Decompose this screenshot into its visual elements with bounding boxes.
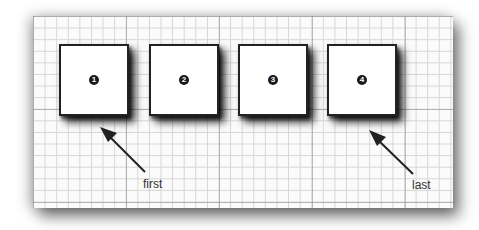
last-arrow-icon [369, 130, 413, 174]
pointer-arrows [0, 0, 479, 230]
first-arrow-icon [100, 127, 145, 172]
first-label: first [143, 177, 162, 191]
last-label: last [412, 178, 431, 192]
